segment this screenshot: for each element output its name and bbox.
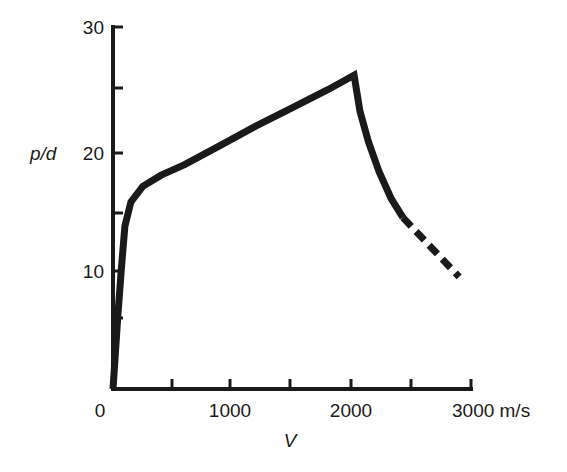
- y-tick-label-20: 20: [83, 143, 104, 164]
- chart-canvas: 30 20 10 0 1000 2000 3000 m/s p/d V: [0, 0, 567, 472]
- x-axis: [111, 379, 473, 389]
- y-axis-title: p/d: [29, 143, 58, 164]
- series-dashed-line: [403, 218, 459, 277]
- x-tick-label-0: 0: [95, 400, 106, 421]
- x-tick-label-1000: 1000: [209, 400, 251, 421]
- series-solid-line: [113, 75, 403, 389]
- y-tick-label-10: 10: [83, 261, 104, 282]
- y-tick-label-30: 30: [83, 17, 104, 38]
- x-tick-label-2000: 2000: [330, 400, 372, 421]
- x-tick-label-3000: 3000 m/s: [452, 400, 530, 421]
- x-axis-title: V: [284, 430, 299, 451]
